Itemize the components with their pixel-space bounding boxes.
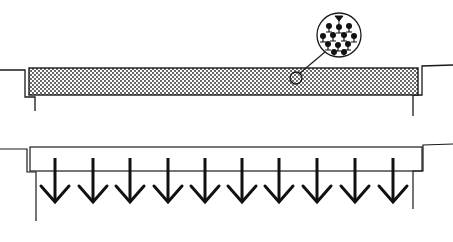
right-ledge-top bbox=[413, 65, 453, 116]
down-arrow-icon bbox=[379, 158, 407, 202]
magnified-spot bbox=[290, 72, 302, 84]
down-arrow-icon bbox=[154, 158, 182, 202]
top-panel bbox=[0, 13, 453, 116]
down-arrow-icon bbox=[191, 158, 219, 202]
figure bbox=[0, 0, 453, 242]
force-arrows bbox=[41, 158, 407, 202]
diagram-canvas bbox=[0, 0, 453, 242]
down-arrow-icon bbox=[41, 158, 69, 202]
down-arrow-icon bbox=[303, 158, 331, 202]
bottom-panel bbox=[0, 144, 453, 221]
magnifier-inset bbox=[317, 13, 361, 58]
down-arrow-icon bbox=[228, 158, 256, 202]
down-arrow-icon bbox=[79, 158, 107, 202]
down-arrow-icon bbox=[341, 158, 369, 202]
empty-plate bbox=[30, 147, 422, 171]
down-arrow-icon bbox=[116, 158, 144, 202]
stippled-plate bbox=[29, 68, 418, 95]
right-ledge-bottom bbox=[413, 144, 453, 209]
cutoff-caption-bottom bbox=[0, 238, 453, 242]
down-arrow-icon bbox=[265, 158, 293, 202]
